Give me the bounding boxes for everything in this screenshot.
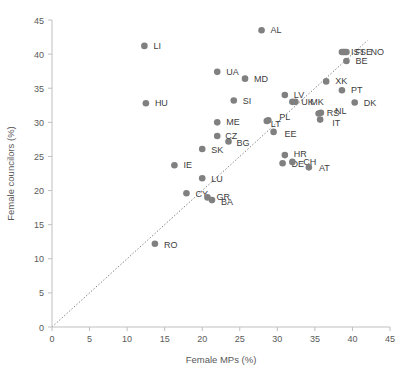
x-tick-label: 20 <box>197 334 207 344</box>
data-point <box>141 43 148 50</box>
y-tick-label: 5 <box>39 288 44 298</box>
data-point-label: XK <box>335 76 347 86</box>
data-point-label: EE <box>285 129 297 139</box>
y-tick-label: 30 <box>34 118 44 128</box>
data-point <box>183 190 190 197</box>
data-point <box>343 49 350 56</box>
data-point <box>242 75 249 82</box>
x-tick-label: 15 <box>160 334 170 344</box>
data-point <box>230 97 237 104</box>
data-point <box>214 69 221 76</box>
reference-line <box>52 40 367 327</box>
chart-canvas: 051015202530354045051015202530354045Fema… <box>0 0 411 378</box>
data-point-label: IT <box>332 118 341 128</box>
data-point <box>292 99 299 106</box>
x-tick-label: 30 <box>272 334 282 344</box>
data-point <box>289 159 296 166</box>
data-point-label: UA <box>226 67 239 77</box>
y-tick-label: 25 <box>34 152 44 162</box>
data-point <box>152 240 159 247</box>
y-tick-label: 15 <box>34 220 44 230</box>
data-point-label: NL <box>335 106 347 116</box>
data-point <box>171 162 178 169</box>
data-point-label: IE <box>183 160 192 170</box>
data-point <box>351 99 358 106</box>
data-point <box>199 146 206 153</box>
x-tick-label: 35 <box>310 334 320 344</box>
y-axis-title: Female councilors (%) <box>5 126 16 221</box>
data-point <box>282 152 289 159</box>
x-tick-label: 40 <box>347 334 357 344</box>
data-point-label: CZ <box>225 131 237 141</box>
y-tick-label: 10 <box>34 254 44 264</box>
data-point <box>343 58 350 65</box>
data-point-label: RO <box>164 240 178 250</box>
data-point-label: AL <box>271 25 282 35</box>
data-point-label: PL <box>279 112 290 122</box>
y-tick-label: 20 <box>34 186 44 196</box>
data-point <box>323 78 330 85</box>
data-point <box>265 117 272 124</box>
data-point-label: BG <box>237 138 250 148</box>
x-tick-label: 0 <box>49 334 54 344</box>
y-tick-label: 40 <box>34 50 44 60</box>
data-point-label: PT <box>351 85 363 95</box>
data-point-label: HU <box>155 98 168 108</box>
y-tick-label: 45 <box>34 16 44 26</box>
x-tick-label: 45 <box>385 334 395 344</box>
x-tick-label: 25 <box>235 334 245 344</box>
data-point-label: AT <box>319 163 330 173</box>
data-point <box>317 116 324 123</box>
data-point <box>306 164 313 171</box>
data-point <box>199 175 206 182</box>
data-point-label: ME <box>226 117 240 127</box>
data-point-label: MK <box>310 97 324 107</box>
data-point-label: NO <box>370 47 384 57</box>
data-point <box>270 129 277 136</box>
scatter-chart: 051015202530354045051015202530354045Fema… <box>0 0 411 378</box>
x-tick-label: 10 <box>122 334 132 344</box>
data-point <box>214 133 221 140</box>
data-point <box>339 87 346 94</box>
data-point-label: BA <box>221 197 233 207</box>
x-axis-title: Female MPs (%) <box>186 354 257 365</box>
data-point <box>209 197 216 204</box>
data-point-label: DK <box>364 98 377 108</box>
data-point-label: SI <box>243 96 252 106</box>
y-tick-label: 0 <box>39 323 44 333</box>
x-tick-label: 5 <box>87 334 92 344</box>
data-point-label: BE <box>355 56 367 66</box>
data-point-label: LU <box>211 174 223 184</box>
y-tick-label: 35 <box>34 84 44 94</box>
data-point-label: MD <box>254 74 268 84</box>
data-point <box>282 92 289 99</box>
data-point <box>318 109 325 116</box>
data-point <box>143 100 150 107</box>
data-point <box>258 27 265 34</box>
data-point <box>214 119 221 126</box>
data-point <box>279 160 286 167</box>
data-point-label: SK <box>211 145 223 155</box>
data-point-label: LI <box>153 41 161 51</box>
